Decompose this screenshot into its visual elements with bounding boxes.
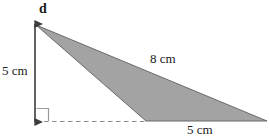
- triangle-shape: [36, 25, 267, 121]
- base-measurement-label: 5 cm: [187, 123, 213, 136]
- figure-canvas: [0, 0, 269, 140]
- height-measurement-label: 5 cm: [2, 64, 28, 77]
- slant-side-measurement-label: 8 cm: [150, 52, 176, 65]
- vertex-label-d: d: [39, 2, 47, 16]
- right-angle-marker: [37, 109, 49, 122]
- geometry-diagram: d 5 cm 8 cm 5 cm: [0, 0, 269, 140]
